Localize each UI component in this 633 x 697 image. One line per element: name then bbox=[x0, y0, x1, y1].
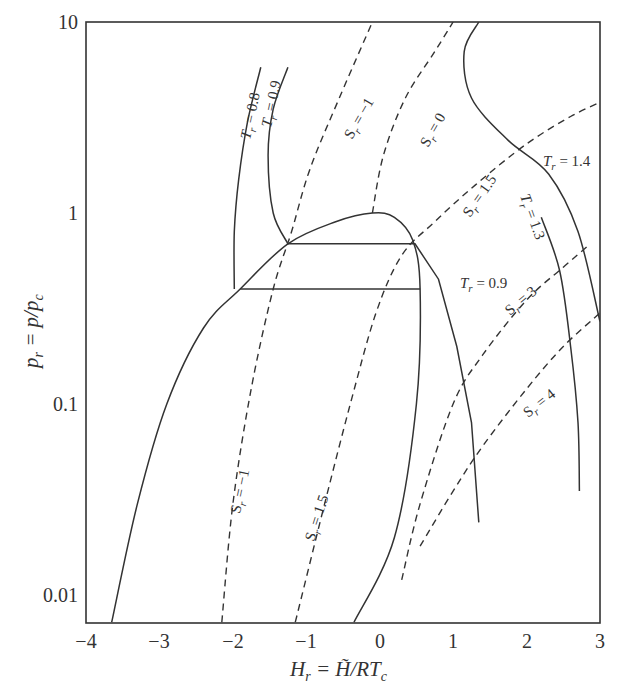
x-tick-3: 3 bbox=[595, 630, 605, 652]
label-tr-1.3: Tr = 1.3 bbox=[514, 192, 548, 243]
series-s-r-4 bbox=[420, 305, 607, 546]
x-axis-ticks: −4 −3 −2 −1 0 1 2 3 bbox=[75, 630, 605, 652]
series-t-r-0.9-tie-line-and-vapor-branch bbox=[288, 244, 479, 523]
x-tick--3: −3 bbox=[148, 630, 169, 652]
label-tr-0.9-liquid: Tr = 0.9 bbox=[258, 79, 286, 129]
x-tick-0: 0 bbox=[375, 630, 385, 652]
label-sr-minus1-upper: Sr = −1 bbox=[341, 95, 380, 143]
x-tick--2: −2 bbox=[222, 630, 243, 652]
label-sr-1.5-lower: Sr = 1.5 bbox=[302, 493, 335, 544]
pressure-enthalpy-chart: 10 1 0.1 0.01 −4 −3 −2 −1 0 1 2 3 Hr = H… bbox=[0, 0, 633, 697]
y-tick-1: 1 bbox=[68, 202, 78, 224]
x-axis-title: Hr = H̃/RTc bbox=[289, 657, 388, 684]
y-axis-ticks: 10 1 0.1 0.01 bbox=[43, 11, 78, 606]
y-tick-0.01: 0.01 bbox=[43, 584, 78, 606]
y-tick-0.1: 0.1 bbox=[53, 393, 78, 415]
series-s-r-3 bbox=[402, 245, 589, 580]
x-tick--1: −1 bbox=[295, 630, 316, 652]
x-tick-2: 2 bbox=[522, 630, 532, 652]
y-tick-10: 10 bbox=[58, 11, 78, 33]
label-tr-0.8: Tr = 0.8 bbox=[237, 91, 265, 141]
label-sr-0: Sr = 0 bbox=[417, 110, 452, 151]
label-sr-minus1-lower: Sr = −1 bbox=[227, 468, 255, 516]
label-sr-3: Sr = 3 bbox=[502, 283, 542, 321]
series-s-r-1.5 bbox=[295, 102, 600, 622]
label-tr-1.4: Tr = 1.4 bbox=[543, 153, 591, 172]
series-saturation-dome-two-phase-envelope- bbox=[112, 213, 421, 622]
x-tick-1: 1 bbox=[448, 630, 458, 652]
label-sr-4: Sr = 4 bbox=[520, 385, 561, 422]
x-tick--4: −4 bbox=[75, 630, 96, 652]
label-sr-1.5-upper: Sr = 1.5 bbox=[459, 172, 502, 222]
label-tr-0.9-vapor: Tr = 0.9 bbox=[460, 275, 507, 294]
plot-frame bbox=[86, 22, 600, 623]
y-axis-title: pr = p/pc bbox=[19, 294, 46, 370]
